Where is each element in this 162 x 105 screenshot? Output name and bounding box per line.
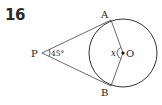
label-P: P <box>31 48 38 59</box>
angle-O-label: x <box>111 48 116 58</box>
label-B: B <box>101 87 108 98</box>
angle-arc-O <box>117 47 121 58</box>
label-A: A <box>100 9 109 20</box>
tangent-circle-diagram: P A B O 45° x <box>0 0 162 105</box>
angle-P-label: 45° <box>51 49 65 58</box>
label-O: O <box>126 48 134 59</box>
center-dot <box>121 51 124 54</box>
angle-arc-P <box>49 50 50 57</box>
